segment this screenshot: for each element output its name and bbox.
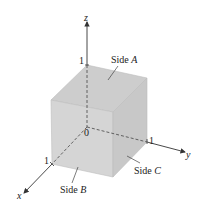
side-b-leader: [72, 167, 78, 183]
z-tick-label: 1: [79, 55, 84, 66]
side-a-label: Side A: [111, 54, 138, 65]
x-tick-label: 1: [44, 155, 49, 166]
z-axis-label: z: [83, 12, 88, 23]
origin-label: 0: [84, 127, 89, 138]
side-c-label: Side C: [134, 165, 161, 176]
side-b-label: Side B: [60, 184, 86, 195]
cube-diagram: z y x 1 1 1 0 Side A Side B Side C: [0, 0, 202, 213]
x-axis-label: x: [16, 190, 22, 201]
front-face-side-b: [51, 100, 113, 177]
x-axis: [24, 164, 52, 193]
y-tick-label: 1: [149, 135, 154, 146]
y-axis-label: y: [185, 149, 191, 160]
